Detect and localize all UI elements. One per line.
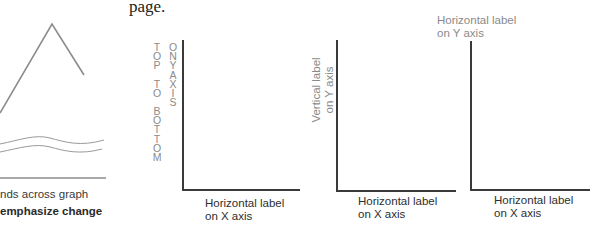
y-axis-line (182, 40, 184, 190)
y-axis-line (470, 41, 472, 190)
y-axis-label-rotated: Vertical label on Y axis (310, 40, 336, 140)
y-axis-label-line1: Vertical label (310, 40, 323, 140)
y-axis-label-line2: on Y axis (323, 40, 336, 140)
peak-trend-line (0, 24, 84, 113)
x-axis-label-line2: on X axis (358, 208, 405, 221)
letter: S (169, 98, 176, 107)
y-axis-label-line2: on Y axis (437, 27, 484, 40)
letter: O (153, 89, 161, 98)
caption-emphasize: emphasize change (0, 205, 102, 218)
x-axis-label-line2: on X axis (494, 207, 541, 220)
x-axis-label-line1: Horizontal label (494, 194, 573, 207)
letter: M (153, 153, 162, 162)
letter: P (153, 61, 160, 70)
wavy-line-lower (0, 146, 102, 153)
x-axis-label-line1: Horizontal label (358, 195, 437, 208)
x-axis-line (182, 189, 300, 191)
x-axis-label-line2: on X axis (205, 210, 252, 223)
x-axis-label-line1: Horizontal label (205, 197, 284, 210)
wavy-line-upper (0, 137, 104, 144)
y-label-stack-top-to-bottom: T O P T O B O T T O M (152, 43, 162, 162)
trend-graph-fragment (0, 0, 120, 190)
x-axis-line (470, 189, 590, 191)
y-axis-line (336, 40, 338, 191)
y-axis-label-line1: Horizontal label (437, 14, 516, 27)
y-label-stack-on-y-axis: O N Y A X I S (168, 43, 178, 107)
caption-trends: nds across graph (0, 188, 88, 201)
page-text: page. (129, 0, 165, 17)
x-axis-line (336, 190, 456, 192)
